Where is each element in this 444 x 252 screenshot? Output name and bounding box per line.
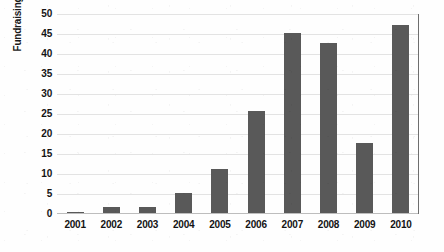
y-axis-tick-label: 35 xyxy=(26,69,52,79)
x-axis-tick-label: 2008 xyxy=(309,219,349,231)
x-axis-tick-label: 2005 xyxy=(200,219,240,231)
bar-chart: Fundraising in $B 05101520253035404550 2… xyxy=(0,0,444,252)
x-axis-tick-label: 2010 xyxy=(381,219,421,231)
y-axis-tick-labels: 05101520253035404550 xyxy=(26,14,52,214)
bar-2004 xyxy=(175,193,192,213)
plot-area xyxy=(57,14,419,214)
y-axis-tick-label: 15 xyxy=(26,149,52,159)
right-axis-line xyxy=(418,14,419,214)
x-axis-tick-label: 2007 xyxy=(272,219,312,231)
y-axis-tick-label: 25 xyxy=(26,109,52,119)
x-axis-tick-label: 2004 xyxy=(164,219,204,231)
x-axis-tick-label: 2001 xyxy=(55,219,95,231)
x-axis-baseline xyxy=(57,213,419,214)
y-axis-tick-label: 50 xyxy=(26,9,52,19)
x-axis-tick-label: 2002 xyxy=(91,219,131,231)
bars-group xyxy=(57,14,419,214)
y-axis-tick-label: 20 xyxy=(26,129,52,139)
y-axis-tick-label: 5 xyxy=(26,189,52,199)
x-axis-tick-label: 2003 xyxy=(128,219,168,231)
bar-2006 xyxy=(248,111,265,213)
bar-2007 xyxy=(284,33,301,213)
y-axis-title: Fundraising in $B xyxy=(10,0,26,76)
y-axis-tick-label: 10 xyxy=(26,169,52,179)
x-axis-tick-label: 2006 xyxy=(236,219,276,231)
bar-2009 xyxy=(356,143,373,213)
x-axis-tick-label: 2009 xyxy=(345,219,385,231)
bar-2008 xyxy=(320,43,337,213)
y-axis-tick-label: 45 xyxy=(26,29,52,39)
y-axis-tick-label: 40 xyxy=(26,49,52,59)
y-axis-tick-label: 0 xyxy=(26,209,52,219)
y-axis-tick-label: 30 xyxy=(26,89,52,99)
bar-2010 xyxy=(392,25,409,213)
x-axis-tick-labels: 2001200220032004200520062007200820092010 xyxy=(57,219,419,233)
bar-2005 xyxy=(211,169,228,213)
